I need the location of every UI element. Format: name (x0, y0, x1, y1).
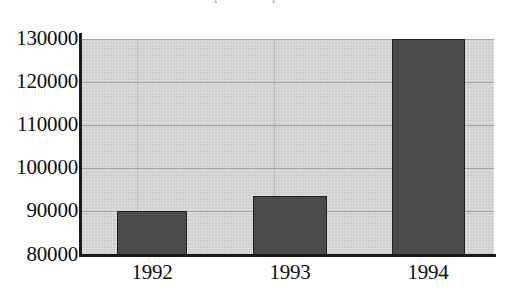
y-tick-label-100000: 100000 (2, 157, 78, 178)
bar-1993[interactable] (253, 196, 327, 255)
y-tick-label-80000: 80000 (2, 244, 78, 265)
chart-title-remnant: Corporate Expenditures (0, 0, 526, 14)
x-tick-label-1994: 1994 (388, 261, 468, 283)
bar-1994[interactable] (392, 39, 465, 255)
x-axis-line (79, 254, 496, 257)
y-tick-label-90000: 90000 (2, 200, 78, 221)
y-tick-label-130000: 130000 (2, 28, 78, 49)
bar-chart-figure: Corporate Expenditures 80000900001000001… (0, 0, 526, 289)
x-tick-label-1993: 1993 (250, 261, 330, 283)
plot-area (82, 39, 494, 255)
bar-1992[interactable] (117, 211, 187, 255)
y-axis-line (79, 33, 82, 257)
y-tick-label-120000: 120000 (2, 71, 78, 92)
x-tick-label-1992: 1992 (112, 261, 192, 283)
y-axis-tick-labels: 8000090000100000110000120000130000 (0, 0, 78, 289)
chart-title-text: Corporate Expenditures (192, 0, 335, 1)
y-tick-label-110000: 110000 (2, 114, 78, 135)
